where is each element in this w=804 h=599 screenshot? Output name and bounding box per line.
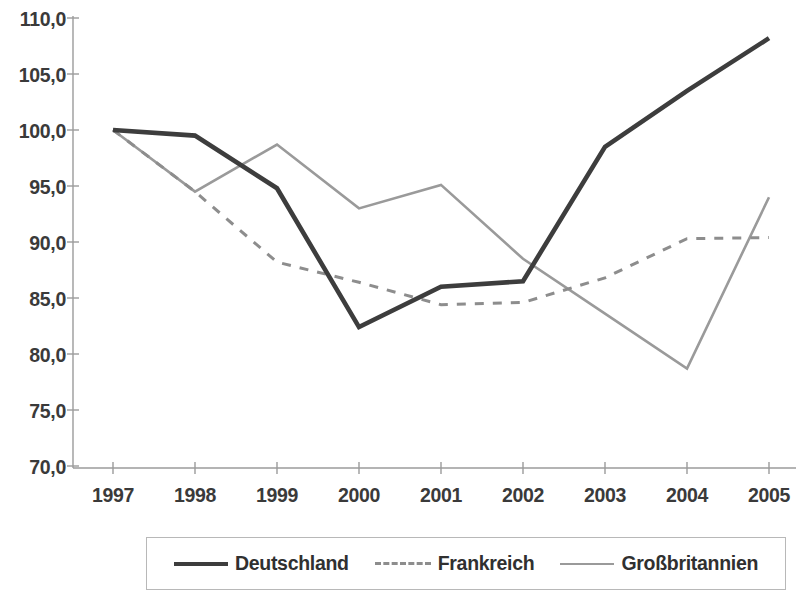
y-axis-tick-label: 110,0 [4, 8, 66, 31]
y-axis-tick-label: 95,0 [4, 176, 66, 199]
legend-item-frankreich: Frankreich [375, 552, 535, 575]
x-axis-tick-label: 1999 [237, 484, 317, 507]
y-axis-tick-label: 105,0 [4, 64, 66, 87]
legend-label-grossbritannien: Großbritannien [621, 552, 758, 575]
x-axis-tick-label: 2000 [319, 484, 399, 507]
y-axis-tick-label: 75,0 [4, 400, 66, 423]
x-axis-tick-label: 2003 [565, 484, 645, 507]
x-axis-tick-label: 2002 [483, 484, 563, 507]
plot-area [0, 0, 804, 599]
legend-swatch-grossbritannien-icon [560, 563, 614, 565]
y-axis-tick-label: 80,0 [4, 344, 66, 367]
axes [67, 16, 796, 474]
legend-label-deutschland: Deutschland [235, 552, 349, 575]
y-axis-tick-label: 85,0 [4, 288, 66, 311]
legend-item-deutschland: Deutschland [174, 552, 349, 575]
data-series-group [113, 38, 769, 368]
series-line-frankreich [113, 130, 769, 305]
y-axis-tick-label: 100,0 [4, 120, 66, 143]
series-line-grossbritannien [113, 130, 769, 369]
y-axis-tick-label: 70,0 [4, 456, 66, 479]
legend-swatch-deutschland-icon [174, 562, 228, 566]
x-axis-tick-label: 2004 [647, 484, 727, 507]
legend-swatch-frankreich-icon [375, 562, 431, 565]
x-axis-tick-label: 2001 [401, 484, 481, 507]
legend-item-grossbritannien: Großbritannien [560, 552, 758, 575]
line-chart: 110,0 105,0 100,0 95,0 90,0 85,0 80,0 75… [0, 0, 804, 599]
x-axis-tick-label: 2005 [729, 484, 804, 507]
x-axis-tick-label: 1998 [155, 484, 235, 507]
y-axis-tick-label: 90,0 [4, 232, 66, 255]
x-axis-tick-label: 1997 [73, 484, 153, 507]
legend-label-frankreich: Frankreich [438, 552, 535, 575]
chart-legend: Deutschland Frankreich Großbritannien [146, 537, 786, 590]
